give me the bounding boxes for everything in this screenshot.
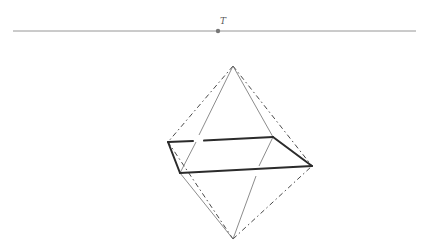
edge-b-c xyxy=(168,142,233,239)
geometry-diagram: T xyxy=(0,0,423,244)
edge-b-e xyxy=(233,166,312,239)
edge-a-c xyxy=(168,66,233,142)
edge-b-f-upper xyxy=(259,137,273,166)
dashed-edges xyxy=(168,66,312,239)
point-t-label: T xyxy=(220,16,227,26)
edge-a-f xyxy=(233,66,273,137)
edge-b-d xyxy=(180,173,233,239)
edge-d-e xyxy=(180,166,312,173)
thin-edges xyxy=(180,66,273,239)
edge-b-f-lower xyxy=(233,176,256,239)
edge-a-e xyxy=(233,66,312,166)
edge-c-d xyxy=(168,142,180,173)
edge-c-f-left xyxy=(168,141,193,142)
edge-a-d-upper xyxy=(199,66,233,135)
edge-c-f-right xyxy=(204,137,273,141)
point-t xyxy=(216,29,220,33)
edge-a-d-lower xyxy=(180,142,196,173)
